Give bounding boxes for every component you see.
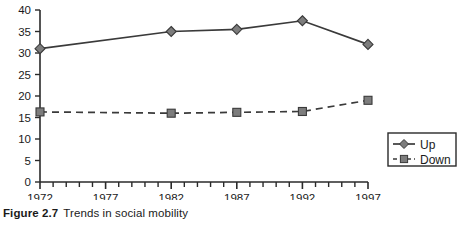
series-lines <box>40 21 368 113</box>
data-point-down <box>167 109 175 117</box>
chart-plot-area: 0510152025303540 19721977198219871992199… <box>0 0 460 200</box>
series-line-up <box>40 21 368 49</box>
legend-label-up: Up <box>420 138 436 152</box>
y-axis-tick-labels: 0510152025303540 <box>18 4 31 188</box>
data-point-down <box>298 107 306 115</box>
x-tick-label: 1972 <box>27 192 53 200</box>
figure-caption-label: Figure 2.7 <box>3 207 58 219</box>
y-tick-label: 5 <box>25 155 31 167</box>
data-point-down <box>364 96 372 104</box>
series-line-down <box>40 100 368 113</box>
y-tick-label: 20 <box>18 90 31 102</box>
figure-caption: Figure 2.7Trends in social mobility <box>3 207 453 219</box>
y-tick-label: 30 <box>18 47 31 59</box>
data-point-up <box>35 44 45 54</box>
y-tick-label: 15 <box>18 112 31 124</box>
line-chart: 0510152025303540 19721977198219871992199… <box>0 0 460 200</box>
chart-legend[interactable]: UpDown <box>388 133 456 167</box>
figure-caption-text: Trends in social mobility <box>63 207 188 219</box>
y-tick-label: 35 <box>18 26 31 38</box>
data-point-up <box>166 27 176 37</box>
data-point-down <box>233 108 241 116</box>
x-tick-label: 1977 <box>93 192 119 200</box>
data-point-up <box>363 39 373 49</box>
data-point-up <box>232 24 242 34</box>
data-point-down <box>36 108 44 116</box>
data-point-up <box>297 16 307 26</box>
x-tick-label: 1982 <box>158 192 184 200</box>
y-tick-label: 40 <box>18 4 31 16</box>
x-axis-tick-marks <box>40 182 368 189</box>
legend-marker-down <box>400 155 407 162</box>
x-tick-label: 1992 <box>290 192 316 200</box>
figure-container: 0510152025303540 19721977198219871992199… <box>0 0 460 230</box>
y-tick-label: 10 <box>18 133 31 145</box>
y-tick-label: 0 <box>25 176 31 188</box>
x-tick-label: 1997 <box>355 192 381 200</box>
x-tick-label: 1987 <box>224 192 250 200</box>
legend-label-down: Down <box>420 153 451 167</box>
x-axis-tick-labels: 197219771982198719921997 <box>27 192 381 200</box>
y-tick-label: 25 <box>18 69 31 81</box>
